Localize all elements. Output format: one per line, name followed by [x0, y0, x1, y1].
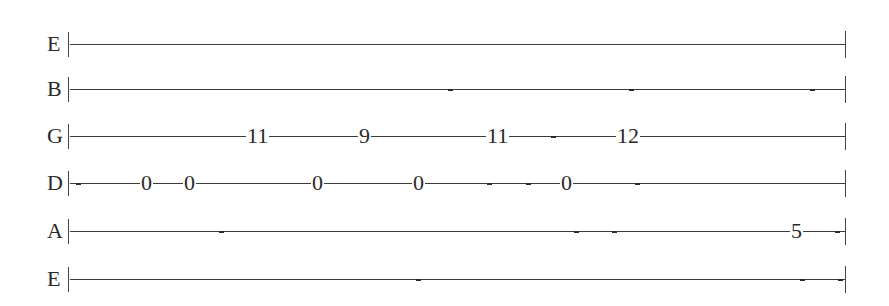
fret-number: 9: [358, 125, 371, 147]
fret-number: 11: [246, 125, 269, 147]
rest-tick: [487, 183, 492, 185]
open-barline: [68, 219, 69, 244]
rest-tick: [838, 279, 843, 281]
open-barline: [68, 77, 69, 102]
rest-tick: [551, 136, 556, 138]
fret-number: 11: [486, 125, 509, 147]
string-row-2: G1191112: [0, 136, 889, 137]
string-line: [70, 231, 845, 232]
rest-tick: [219, 231, 224, 233]
string-label: E: [47, 33, 60, 55]
open-barline: [68, 32, 69, 57]
fret-number: 0: [560, 172, 573, 194]
string-label: D: [47, 172, 63, 194]
rest-tick: [629, 89, 634, 91]
string-row-0: E: [0, 44, 889, 45]
fret-number: 5: [790, 220, 803, 242]
rest-tick: [416, 279, 421, 281]
string-label: G: [47, 125, 63, 147]
string-label: A: [47, 220, 63, 242]
rest-tick: [835, 231, 840, 233]
string-line: [70, 279, 845, 280]
fret-number: 0: [183, 172, 196, 194]
string-line: [70, 89, 845, 90]
fret-number: 0: [412, 172, 425, 194]
end-barline: [845, 170, 846, 197]
open-barline: [68, 171, 69, 196]
string-row-5: E: [0, 279, 889, 280]
end-barline: [845, 76, 846, 103]
fret-number: 12: [616, 125, 640, 147]
string-label: E: [47, 268, 60, 290]
end-barline: [845, 31, 846, 58]
rest-tick: [76, 183, 81, 185]
string-line: [70, 44, 845, 45]
rest-tick: [448, 89, 453, 91]
string-label: B: [47, 78, 62, 100]
rest-tick: [612, 231, 617, 233]
open-barline: [68, 124, 69, 149]
fret-number: 0: [311, 172, 324, 194]
end-barline: [845, 218, 846, 245]
string-line: [70, 136, 845, 137]
open-barline: [68, 267, 69, 292]
rest-tick: [635, 183, 640, 185]
string-row-4: A5: [0, 231, 889, 232]
rest-tick: [800, 279, 805, 281]
string-row-1: B: [0, 89, 889, 90]
rest-tick: [526, 183, 531, 185]
fret-number: 0: [140, 172, 153, 194]
rest-tick: [574, 231, 579, 233]
end-barline: [845, 266, 846, 293]
rest-tick: [810, 89, 815, 91]
guitar-tablature: EBG1191112D00000A5E: [0, 0, 889, 306]
end-barline: [845, 123, 846, 150]
string-row-3: D00000: [0, 183, 889, 184]
